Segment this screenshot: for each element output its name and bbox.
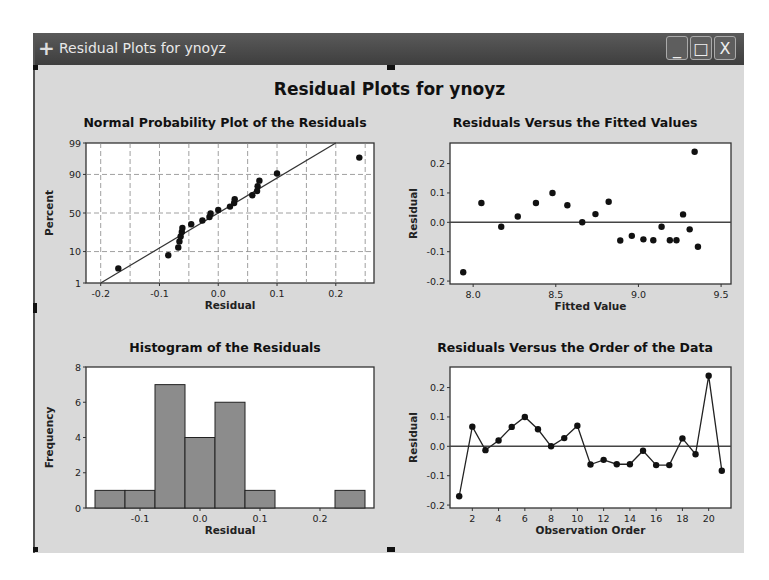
svg-text:0.0: 0.0 [430, 441, 445, 452]
svg-text:8: 8 [548, 513, 554, 524]
svg-text:6: 6 [75, 397, 81, 408]
normal-probability-plot: 110509099-0.2-0.10.00.10.2ResidualPercen… [43, 138, 374, 312]
svg-text:4: 4 [75, 432, 81, 443]
close-icon: X [720, 39, 731, 58]
svg-text:0.0: 0.0 [430, 217, 445, 228]
plus-icon: + [38, 36, 55, 60]
svg-text:10: 10 [571, 513, 583, 524]
svg-text:12: 12 [598, 513, 610, 524]
data-point [482, 447, 488, 453]
close-button[interactable]: X [714, 36, 736, 60]
svg-text:20: 20 [703, 513, 715, 524]
svg-text:8: 8 [75, 362, 81, 373]
svg-text:90: 90 [69, 169, 81, 180]
histogram-bar [125, 490, 155, 508]
histogram-bar [155, 385, 185, 508]
residuals-vs-order-plot: -0.2-0.10.00.10.22468101214161820Observa… [407, 367, 731, 536]
data-point [640, 448, 646, 454]
data-point [650, 237, 656, 243]
data-point [522, 414, 528, 420]
graph-area: Residual Plots for ynoyz Normal Probabil… [35, 65, 744, 553]
data-point [679, 435, 685, 441]
svg-text:Residual: Residual [407, 412, 419, 463]
residuals-vs-fits-plot: -0.2-0.10.00.10.28.08.59.09.5Fitted Valu… [407, 143, 731, 312]
svg-text:10: 10 [69, 246, 81, 257]
minimize-button[interactable]: _ [666, 36, 688, 60]
histogram-bar [215, 402, 245, 508]
data-point [495, 437, 501, 443]
data-point [614, 461, 620, 467]
histogram-bar [245, 490, 275, 508]
data-point [564, 202, 570, 208]
svg-text:0.1: 0.1 [430, 187, 445, 198]
data-point [666, 462, 672, 468]
data-point [653, 462, 659, 468]
data-point [509, 424, 515, 430]
data-point [627, 461, 633, 467]
svg-text:9.5: 9.5 [714, 289, 729, 300]
svg-text:Fitted Value: Fitted Value [555, 300, 627, 312]
data-point [592, 211, 598, 217]
histogram-bar [95, 490, 125, 508]
data-point [705, 373, 711, 379]
data-point [695, 243, 701, 249]
data-point [249, 192, 255, 198]
data-point [254, 183, 260, 189]
svg-text:99: 99 [69, 138, 81, 149]
window-title: Residual Plots for ynoyz [59, 40, 226, 56]
data-point [691, 149, 697, 155]
data-point [719, 467, 725, 473]
svg-text:Observation Order: Observation Order [536, 524, 647, 536]
svg-text:-0.2: -0.2 [426, 276, 445, 287]
svg-text:0.2: 0.2 [430, 158, 445, 169]
svg-text:0.1: 0.1 [269, 288, 284, 299]
data-point [680, 211, 686, 217]
svg-text:50: 50 [69, 208, 81, 219]
data-point [115, 265, 121, 271]
svg-text:-0.1: -0.1 [131, 513, 150, 524]
svg-text:Percent: Percent [43, 190, 55, 236]
data-point [356, 154, 362, 160]
svg-text:8.5: 8.5 [548, 289, 563, 300]
data-point [600, 457, 606, 463]
data-point [673, 237, 679, 243]
data-point [456, 493, 462, 499]
data-point [579, 219, 585, 225]
svg-text:Residual: Residual [407, 188, 419, 239]
svg-text:0: 0 [75, 503, 81, 514]
svg-text:8.0: 8.0 [466, 289, 481, 300]
data-point [535, 426, 541, 432]
data-point [199, 217, 205, 223]
data-point [232, 196, 238, 202]
charts-canvas: 110509099-0.2-0.10.00.10.2ResidualPercen… [35, 65, 744, 553]
histogram-bar [335, 490, 365, 508]
data-point [617, 237, 623, 243]
histogram-bar [185, 438, 215, 509]
data-point [469, 423, 475, 429]
svg-text:Frequency: Frequency [43, 407, 55, 469]
svg-text:0.1: 0.1 [252, 513, 267, 524]
svg-text:-0.1: -0.1 [150, 288, 169, 299]
data-point [179, 225, 185, 231]
data-point [629, 233, 635, 239]
svg-text:16: 16 [650, 513, 662, 524]
svg-text:0.2: 0.2 [328, 288, 343, 299]
data-point [498, 224, 504, 230]
data-point [533, 200, 539, 206]
data-point [605, 199, 611, 205]
data-point [561, 435, 567, 441]
data-point [574, 423, 580, 429]
title-bar[interactable]: + Residual Plots for ynoyz _ □ X [35, 33, 744, 65]
data-point [515, 213, 521, 219]
svg-text:0.0: 0.0 [192, 513, 207, 524]
data-point [188, 221, 194, 227]
maximize-button[interactable]: □ [690, 36, 712, 60]
svg-text:0.2: 0.2 [312, 513, 327, 524]
svg-text:2: 2 [75, 467, 81, 478]
data-point [256, 177, 262, 183]
data-point [658, 224, 664, 230]
minimize-icon: _ [673, 39, 681, 58]
data-point [175, 244, 181, 250]
data-point [460, 269, 466, 275]
svg-text:-0.2: -0.2 [91, 288, 110, 299]
